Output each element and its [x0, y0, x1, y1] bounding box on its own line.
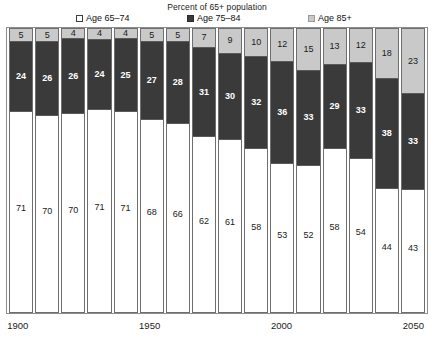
bar-column[interactable]: 52670 — [34, 28, 60, 313]
bar-value-label: 71 — [121, 204, 131, 213]
bar-column[interactable]: 42670 — [60, 28, 86, 313]
stacked-bar[interactable]: 103258 — [244, 28, 268, 313]
segment-age-75-84[interactable]: 24 — [88, 40, 110, 109]
stacked-bar[interactable]: 52866 — [166, 28, 190, 313]
segment-age-75-84[interactable]: 29 — [324, 65, 346, 148]
stacked-bar[interactable]: 52471 — [9, 28, 33, 313]
stacked-bar[interactable]: 73162 — [192, 28, 216, 313]
bar-column[interactable]: 42471 — [86, 28, 112, 313]
bar-column[interactable]: 132958 — [322, 28, 348, 313]
segment-age-65-74[interactable]: 44 — [376, 188, 398, 313]
segment-age-65-74[interactable]: 68 — [141, 119, 163, 313]
bar-column[interactable]: 93061 — [217, 28, 243, 313]
segment-age-65-74[interactable]: 58 — [245, 148, 267, 313]
stacked-bar[interactable]: 132958 — [323, 28, 347, 313]
stacked-bar[interactable]: 42471 — [87, 28, 111, 313]
segment-age-75-84[interactable]: 33 — [402, 94, 424, 189]
segment-age-85-plus[interactable]: 10 — [245, 28, 267, 57]
segment-age-65-74[interactable]: 66 — [167, 123, 189, 313]
segment-age-75-84[interactable]: 26 — [62, 39, 84, 113]
light-swatch-icon — [308, 15, 315, 22]
bar-column[interactable]: 233343 — [400, 28, 426, 313]
bar-value-label: 70 — [42, 207, 52, 216]
segment-age-75-84[interactable]: 24 — [10, 42, 32, 110]
segment-age-65-74[interactable]: 53 — [271, 163, 293, 313]
chart-legend: Age 65–74 Age 75–84 Age 85+ — [0, 13, 434, 26]
bar-value-label: 52 — [303, 231, 313, 240]
bar-value-label: 27 — [147, 76, 157, 85]
stacked-bar[interactable]: 183844 — [375, 28, 399, 313]
bar-value-label: 33 — [408, 137, 418, 146]
segment-age-75-84[interactable]: 27 — [141, 42, 163, 119]
segment-age-85-plus[interactable]: 5 — [10, 28, 32, 42]
segment-age-75-84[interactable]: 30 — [219, 54, 241, 140]
segment-age-75-84[interactable]: 31 — [193, 48, 215, 136]
stacked-bar[interactable]: 93061 — [218, 28, 242, 313]
segment-age-85-plus[interactable]: 4 — [62, 28, 84, 39]
bar-column[interactable]: 73162 — [191, 28, 217, 313]
stacked-bar[interactable]: 52670 — [35, 28, 59, 313]
segment-age-85-plus[interactable]: 23 — [402, 28, 424, 94]
segment-age-65-74[interactable]: 70 — [36, 115, 58, 313]
segment-age-85-plus[interactable]: 7 — [193, 28, 215, 48]
segment-age-75-84[interactable]: 33 — [350, 63, 372, 158]
segment-age-75-84[interactable]: 32 — [245, 57, 267, 148]
segment-age-85-plus[interactable]: 9 — [219, 28, 241, 54]
segment-age-85-plus[interactable]: 4 — [115, 28, 137, 39]
bar-value-label: 4 — [97, 29, 102, 38]
stacked-bar[interactable]: 123653 — [270, 28, 294, 313]
segment-age-75-84[interactable]: 38 — [376, 79, 398, 187]
segment-age-75-84[interactable]: 33 — [297, 71, 319, 165]
bar-value-label: 33 — [303, 113, 313, 122]
segment-age-65-74[interactable]: 54 — [350, 158, 372, 313]
segment-age-85-plus[interactable]: 15 — [297, 28, 319, 71]
segment-age-65-74[interactable]: 62 — [193, 136, 215, 313]
segment-age-85-plus[interactable]: 5 — [167, 28, 189, 42]
bar-column[interactable]: 123653 — [269, 28, 295, 313]
bar-value-label: 4 — [123, 29, 128, 38]
segment-age-65-74[interactable]: 70 — [62, 113, 84, 313]
segment-age-85-plus[interactable]: 13 — [324, 28, 346, 65]
segment-age-65-74[interactable]: 58 — [324, 148, 346, 313]
bar-column[interactable]: 183844 — [374, 28, 400, 313]
segment-age-85-plus[interactable]: 18 — [376, 28, 398, 79]
bar-column[interactable]: 103258 — [243, 28, 269, 313]
bar-value-label: 58 — [330, 223, 340, 232]
bar-column[interactable]: 52768 — [139, 28, 165, 313]
stacked-bar[interactable]: 153352 — [296, 28, 320, 313]
stacked-bar[interactable]: 42571 — [114, 28, 138, 313]
segment-age-85-plus[interactable]: 12 — [350, 28, 372, 63]
bar-column[interactable]: 42571 — [113, 28, 139, 313]
plot-area: 5247152670426704247142571527685286673162… — [7, 28, 427, 313]
stacked-bar[interactable]: 52768 — [140, 28, 164, 313]
x-axis: 1900195020002050 — [6, 316, 428, 336]
bar-column[interactable]: 52471 — [8, 28, 34, 313]
segment-age-65-74[interactable]: 71 — [115, 111, 137, 313]
bar-value-label: 5 — [175, 31, 180, 40]
segment-age-65-74[interactable]: 43 — [402, 189, 424, 313]
stacked-bar[interactable]: 123354 — [349, 28, 373, 313]
segment-age-75-84[interactable]: 28 — [167, 42, 189, 123]
segment-age-75-84[interactable]: 26 — [36, 42, 58, 115]
bar-column[interactable]: 52866 — [165, 28, 191, 313]
x-tick-label: 2050 — [403, 320, 424, 331]
segment-age-75-84[interactable]: 36 — [271, 62, 293, 164]
segment-age-65-74[interactable]: 61 — [219, 139, 241, 313]
segment-age-85-plus[interactable]: 12 — [271, 28, 293, 62]
segment-age-65-74[interactable]: 71 — [88, 109, 110, 313]
bar-value-label: 23 — [408, 57, 418, 66]
bar-value-label: 5 — [45, 31, 50, 40]
bar-value-label: 33 — [356, 106, 366, 115]
segment-age-65-74[interactable]: 71 — [10, 111, 32, 313]
stacked-bar[interactable]: 42670 — [61, 28, 85, 313]
segment-age-65-74[interactable]: 52 — [297, 165, 319, 313]
bar-column[interactable]: 123354 — [348, 28, 374, 313]
segment-age-75-84[interactable]: 25 — [115, 39, 137, 110]
bar-column[interactable]: 153352 — [295, 28, 321, 313]
segment-age-85-plus[interactable]: 5 — [36, 28, 58, 42]
stacked-bar[interactable]: 233343 — [401, 28, 425, 313]
bar-value-label: 29 — [330, 102, 340, 111]
segment-age-85-plus[interactable]: 5 — [141, 28, 163, 42]
segment-age-85-plus[interactable]: 4 — [88, 28, 110, 40]
legend-label-age-85-plus: Age 85+ — [318, 13, 352, 23]
